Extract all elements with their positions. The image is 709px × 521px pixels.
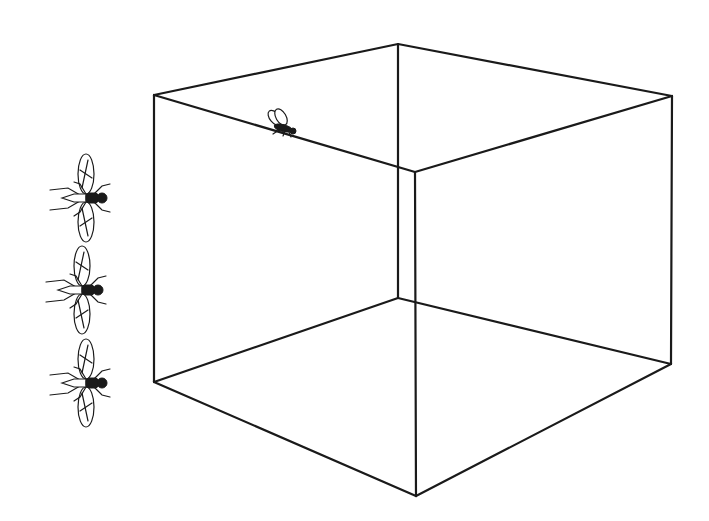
cube	[154, 44, 672, 496]
edge-bottom-back-to-bottom-right	[398, 298, 671, 364]
edge-bottom-right-to-bottom-front	[416, 364, 671, 496]
edge-top-left-to-top-back	[154, 44, 398, 95]
edge-top-right-to-top-front	[415, 96, 672, 172]
edge-vertical-front	[415, 172, 416, 496]
cube-cage-diagram	[0, 0, 709, 521]
edge-top-back-to-top-right	[398, 44, 672, 96]
edge-bottom-left-to-bottom-back	[154, 298, 398, 382]
fly-3-icon	[50, 339, 110, 427]
edge-vertical-right	[671, 96, 672, 364]
fly-2-icon	[46, 246, 106, 334]
fly-1-icon	[50, 154, 110, 242]
edge-bottom-front-to-bottom-left	[154, 382, 416, 496]
